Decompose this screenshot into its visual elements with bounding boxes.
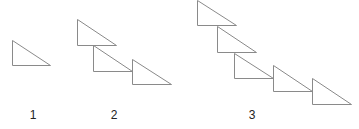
right-triangle-shape [78, 20, 117, 46]
right-triangle-shape [133, 60, 172, 85]
right-triangle-shape [274, 66, 313, 92]
figure-label-3: 3 [242, 108, 262, 122]
right-triangle-shape [313, 79, 352, 105]
figure-label-1: 1 [23, 108, 43, 122]
right-triangle-shape [198, 1, 237, 26]
right-triangle-shape [218, 27, 257, 53]
figure-2 [78, 20, 172, 85]
right-triangle-shape [13, 41, 51, 66]
figure-label-2: 2 [104, 108, 124, 122]
figure-3 [198, 1, 352, 105]
right-triangle-shape [235, 54, 274, 79]
figure-1 [13, 41, 51, 66]
triangle-pattern-diagram [0, 0, 359, 129]
right-triangle-shape [94, 46, 133, 72]
